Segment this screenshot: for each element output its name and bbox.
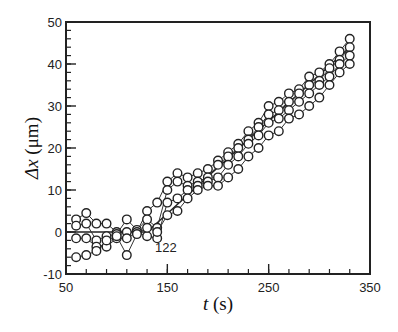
y-axis-unit: (μm) <box>21 117 43 155</box>
x-axis-unit: (s) <box>213 293 233 315</box>
data-point-marker <box>224 152 233 161</box>
x-axis-variable: t <box>203 293 213 314</box>
x-axis-label: t (s) <box>203 293 233 315</box>
data-point-marker <box>345 43 354 52</box>
data-point-marker <box>102 236 111 245</box>
data-point-marker <box>163 186 172 195</box>
data-point-marker <box>214 173 223 182</box>
data-point-marker <box>325 81 334 90</box>
data-point-marker <box>72 253 81 262</box>
y-axis-variable: Δx <box>21 155 42 180</box>
x-axis-title: t (s) <box>203 293 233 315</box>
data-point-marker <box>244 140 253 149</box>
data-point-marker <box>123 234 132 243</box>
data-point-marker <box>264 102 273 111</box>
data-point-marker <box>72 234 81 243</box>
data-point-marker <box>295 98 304 107</box>
data-point-marker <box>173 207 182 216</box>
data-point-marker <box>92 219 101 228</box>
data-point-marker <box>275 114 284 123</box>
data-point-marker <box>214 182 223 191</box>
data-point-marker <box>264 131 273 140</box>
annotation-label: 122 <box>155 240 177 255</box>
data-point-marker <box>305 72 314 81</box>
data-point-marker <box>153 228 162 237</box>
y-tick-label: 50 <box>48 15 62 30</box>
x-tick-label: 350 <box>359 280 381 295</box>
data-point-marker <box>345 35 354 44</box>
data-point-marker <box>244 152 253 161</box>
data-point-marker <box>163 198 172 207</box>
data-point-marker <box>234 152 243 161</box>
data-point-marker <box>173 169 182 178</box>
data-point-marker <box>305 102 314 111</box>
data-point-marker <box>214 161 223 170</box>
data-point-marker <box>112 232 121 241</box>
data-point-marker <box>345 51 354 60</box>
series-trace-1 <box>72 35 354 237</box>
data-point-marker <box>183 173 192 182</box>
y-axis-label: Δx (μm) <box>21 117 43 180</box>
data-point-marker <box>183 194 192 203</box>
data-point-marker <box>234 165 243 174</box>
data-point-marker <box>325 72 334 81</box>
data-point-marker <box>275 98 284 107</box>
data-point-marker <box>72 221 81 230</box>
data-point-marker <box>264 119 273 128</box>
x-tick-label: 150 <box>156 280 178 295</box>
data-point-marker <box>143 215 152 224</box>
data-point-marker <box>275 127 284 136</box>
data-point-marker <box>204 182 213 191</box>
data-point-marker <box>193 169 202 178</box>
data-point-marker <box>315 81 324 90</box>
data-point-marker <box>285 114 294 123</box>
data-point-marker <box>234 144 243 153</box>
y-tick-label: 40 <box>48 57 62 72</box>
data-point-marker <box>183 186 192 195</box>
data-point-marker <box>345 60 354 69</box>
data-point-marker <box>82 234 91 243</box>
data-point-marker <box>295 89 304 98</box>
x-tick-label: 50 <box>59 280 73 295</box>
y-tick-label: 0 <box>55 225 62 240</box>
series-line <box>76 39 350 232</box>
y-tick-label: 20 <box>48 141 62 156</box>
data-point-marker <box>92 247 101 256</box>
data-point-marker <box>254 131 263 140</box>
data-point-marker <box>305 89 314 98</box>
data-point-marker <box>325 64 334 73</box>
data-point-marker <box>82 251 91 260</box>
x-tick-label: 250 <box>258 280 280 295</box>
y-tick-label: -10 <box>43 267 62 282</box>
data-point-marker <box>173 177 182 186</box>
data-point-marker <box>82 219 91 228</box>
data-point-marker <box>244 127 253 136</box>
data-point-marker <box>285 89 294 98</box>
data-point-marker <box>224 173 233 182</box>
data-point-marker <box>315 93 324 102</box>
data-point-marker <box>143 224 152 233</box>
data-point-marker <box>102 219 111 228</box>
data-point-marker <box>153 198 162 207</box>
data-point-marker <box>285 98 294 107</box>
data-point-marker <box>315 68 324 77</box>
plot-frame <box>66 22 370 274</box>
data-point-marker <box>143 207 152 216</box>
data-point-marker <box>264 110 273 119</box>
data-point-marker <box>285 106 294 115</box>
data-point-marker <box>204 165 213 174</box>
data-point-marker <box>275 106 284 115</box>
data-series <box>66 35 354 262</box>
data-point-marker <box>224 161 233 170</box>
data-point-marker <box>123 215 132 224</box>
data-point-marker <box>143 232 152 241</box>
plot-border <box>66 22 370 274</box>
data-point-marker <box>82 209 91 218</box>
data-point-marker <box>173 194 182 203</box>
y-axis-title: Δx (μm) <box>21 117 43 180</box>
data-point-marker <box>163 211 172 220</box>
data-point-marker <box>295 110 304 119</box>
data-point-marker <box>254 144 263 153</box>
data-point-marker <box>305 81 314 90</box>
y-tick-label: 30 <box>48 99 62 114</box>
